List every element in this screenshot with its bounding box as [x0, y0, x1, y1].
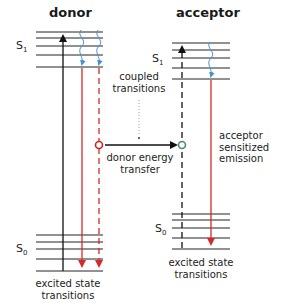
donor-s0-sub: 0 [23, 249, 27, 257]
acceptor-s0-letter: S [155, 222, 162, 235]
donor-s0-label: S0 [16, 243, 27, 257]
donor-bottom-line2: transitions [33, 290, 103, 302]
emission-line2: sensitized [219, 142, 269, 154]
donor-s0-levels [36, 235, 103, 271]
acceptor-title: acceptor [176, 6, 240, 21]
acceptor-s1-label: S1 [152, 53, 163, 67]
transfer-line1: donor energy [104, 152, 176, 164]
acceptor-emission-label: acceptor sensitized emission [219, 130, 269, 165]
acceptor-relaxation-wave [209, 42, 213, 76]
coupled-line2: transitions [108, 83, 170, 95]
donor-bottom-line1: excited state [33, 278, 103, 290]
transfer-line2: transfer [104, 164, 176, 176]
coupled-transitions-label: coupled transitions [108, 71, 170, 94]
acceptor-s1-sub: 1 [159, 59, 163, 67]
emission-line3: emission [219, 153, 269, 165]
acceptor-s0-sub: 0 [162, 229, 166, 237]
donor-relaxation-wave-1 [80, 30, 84, 64]
donor-bottom-label: excited state transitions [33, 278, 103, 301]
acceptor-s0-levels [172, 214, 230, 249]
emission-line1: acceptor [219, 130, 269, 142]
donor-s1-label: S1 [16, 40, 27, 54]
acceptor-bottom-line2: transitions [166, 269, 236, 281]
acceptor-bottom-line1: excited state [166, 257, 236, 269]
donor-s1-letter: S [16, 39, 23, 52]
energy-transfer-label: donor energy transfer [104, 152, 176, 175]
acceptor-bottom-label: excited state transitions [166, 257, 236, 280]
donor-s1-levels [36, 32, 103, 67]
acceptor-coupling-point [179, 142, 186, 149]
acceptor-s1-levels [172, 43, 230, 79]
donor-title: donor [49, 6, 92, 21]
coupled-line1: coupled [108, 71, 170, 83]
donor-s0-letter: S [16, 242, 23, 255]
donor-coupling-point [96, 142, 103, 149]
acceptor-s1-letter: S [152, 52, 159, 65]
donor-relaxation-wave-2 [97, 30, 101, 64]
donor-s1-sub: 1 [23, 46, 27, 54]
acceptor-s0-label: S0 [155, 223, 166, 237]
